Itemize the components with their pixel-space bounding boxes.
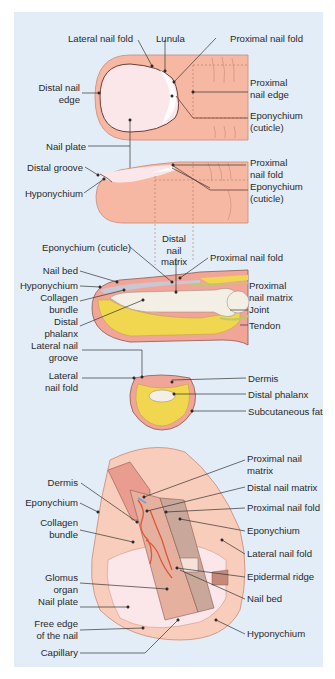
label-eponychium-top: Eponychium (cuticle) (250, 110, 303, 133)
label-distal-phalanx-sagittal: Distal phalanx (10, 316, 78, 339)
label-tendon: Tendon (249, 320, 280, 332)
label-epidermal-ridge: Epidermal ridge (247, 571, 314, 583)
label-joint: Joint (249, 304, 269, 316)
label-lateral-nail-fold-cutaway: Lateral nail fold (247, 548, 312, 560)
label-distal-nail-edge: Distal nail edge (20, 82, 80, 105)
label-distal-groove: Distal groove (10, 162, 83, 174)
label-collagen-bundle-cutaway: Collagen bundle (10, 517, 78, 540)
label-free-edge: Free edge of the nail (10, 618, 78, 641)
label-distal-nail-matrix: Distal nail matrix (155, 233, 193, 268)
label-proximal-nail-fold-cutaway: Proximal nail fold (247, 502, 320, 514)
label-dermis-cross: Dermis (248, 373, 278, 385)
label-nail-plate-cutaway: Nail plate (10, 596, 78, 608)
label-proximal-nail-edge: Proximal nail edge (250, 77, 289, 100)
label-distal-nail-matrix-cutaway: Distal nail matrix (247, 482, 317, 494)
cutaway-view (91, 448, 245, 641)
label-lateral-nail-fold-cross: Lateral nail fold (10, 370, 78, 393)
label-lunula: Lunula (156, 33, 185, 45)
label-hyponychium-cutaway: Hyponychium (247, 628, 305, 640)
label-eponychium-side: Eponychium (cuticle) (250, 181, 303, 204)
label-glomus-organ: Glomus organ (10, 572, 78, 595)
label-nail-plate-top: Nail plate (20, 141, 86, 153)
label-proximal-nail-fold: Proximal nail fold (230, 33, 303, 45)
label-hyponychium-side: Hyponychium (10, 188, 83, 200)
label-nail-bed-sagittal: Nail bed (10, 265, 78, 277)
label-eponychium-cutaway-left: Eponychium (10, 497, 78, 509)
label-proximal-nail-matrix-cutaway: Proximal nail matrix (247, 453, 302, 476)
label-lateral-nail-fold: Lateral nail fold (68, 33, 133, 45)
label-collagen-bundle-sagittal: Collagen bundle (10, 292, 78, 315)
label-eponychium-sagittal: Eponychium (cuticle) (42, 242, 131, 254)
label-proximal-nail-fold-side: Proximal nail fold (250, 157, 287, 180)
label-nail-bed-cutaway: Nail bed (247, 593, 282, 605)
label-eponychium-cutaway-right: Eponychium (247, 525, 300, 537)
label-dermis-cutaway: Dermis (10, 477, 78, 489)
label-proximal-nail-matrix-sagittal: Proximal nail matrix (249, 280, 293, 303)
label-lateral-nail-groove: Lateral nail groove (10, 340, 78, 363)
label-subcutaneous-fat: Subcutaneous fat (248, 406, 323, 418)
label-proximal-nail-fold-sagittal: Proximal nail fold (210, 252, 283, 264)
label-distal-phalanx-cross: Distal phalanx (248, 389, 308, 401)
cross-section (130, 375, 196, 430)
label-hyponychium-sagittal: Hyponychium (10, 280, 78, 292)
top-view-finger (95, 55, 248, 140)
label-capillary: Capillary (10, 647, 78, 659)
